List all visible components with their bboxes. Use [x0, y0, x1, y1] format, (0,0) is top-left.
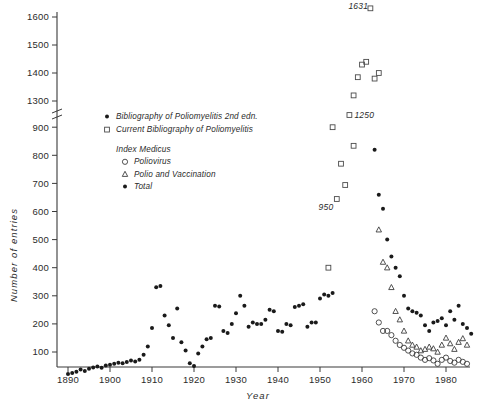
data-series	[373, 148, 474, 336]
x-axis-tick-labels: 1890190019101920193019401950196019701980	[57, 374, 457, 385]
x-tick-label: 1920	[183, 374, 205, 385]
axis-ticks	[52, 17, 446, 372]
data-point	[439, 342, 444, 347]
x-tick-label: 1940	[267, 374, 289, 385]
data-point	[251, 320, 255, 324]
data-point	[238, 294, 242, 298]
data-point	[259, 322, 263, 326]
data-point	[435, 361, 440, 366]
y-tick-label: 1400	[27, 67, 49, 78]
data-point	[389, 254, 393, 258]
data-point	[380, 259, 385, 264]
data-point	[448, 341, 453, 346]
data-point	[397, 317, 402, 322]
data-point	[137, 358, 141, 362]
data-point	[163, 313, 167, 317]
data-point	[200, 344, 204, 348]
data-point	[385, 238, 389, 242]
y-tick-label: 500	[33, 234, 49, 245]
y-axis-title: Number of entries	[8, 208, 19, 302]
y-tick-label: 1300	[27, 95, 49, 106]
data-point	[297, 304, 301, 308]
data-point	[464, 342, 469, 347]
legend-marker	[105, 114, 109, 118]
x-tick-label: 1930	[225, 374, 247, 385]
data-point	[318, 297, 322, 301]
data-point	[339, 161, 344, 166]
y-tick-label: 400	[33, 262, 49, 273]
chart-canvas: 1002003004005006007008009001300140015001…	[0, 0, 482, 407]
data-point	[171, 336, 175, 340]
data-point	[381, 207, 385, 211]
poliomyelitis-literature-chart: 1002003004005006007008009001300140015001…	[0, 0, 482, 407]
data-point	[255, 322, 259, 326]
data-point	[87, 367, 91, 371]
data-point	[343, 183, 348, 188]
data-point	[150, 326, 154, 330]
data-point	[125, 360, 129, 364]
data-point	[70, 371, 74, 375]
data-point	[234, 311, 238, 315]
y-tick-label: 1600	[27, 11, 49, 22]
data-point	[74, 370, 78, 374]
data-point	[175, 306, 179, 310]
x-tick-label: 1910	[141, 374, 163, 385]
data-point	[376, 227, 381, 232]
data-point	[188, 361, 192, 365]
data-point	[226, 331, 230, 335]
data-point	[209, 336, 213, 340]
data-point	[393, 338, 398, 343]
data-point-annotation: 1250	[354, 110, 374, 120]
data-point	[376, 320, 381, 325]
legend-label: Polio and Vaccination	[134, 170, 216, 179]
y-tick-label: 800	[33, 150, 49, 161]
y-tick-label: 700	[33, 178, 49, 189]
y-tick-label: 300	[33, 290, 49, 301]
x-axis-title: Year	[246, 390, 270, 401]
data-point	[146, 344, 150, 348]
data-point	[184, 349, 188, 353]
x-tick-label: 1900	[99, 374, 121, 385]
data-point	[351, 143, 356, 148]
x-tick-label: 1980	[435, 374, 457, 385]
data-point	[330, 125, 335, 130]
data-point	[276, 329, 280, 333]
data-annotations: 16311250950	[319, 1, 375, 212]
data-point	[448, 309, 452, 313]
chart-legend: Bibliography of Poliomyelitis 2nd edn.Cu…	[105, 112, 258, 191]
data-point	[377, 193, 381, 197]
data-point	[272, 309, 276, 313]
data-point	[196, 351, 200, 355]
data-point	[305, 325, 309, 329]
data-point	[436, 319, 440, 323]
data-point	[91, 365, 95, 369]
data-series	[326, 6, 381, 270]
data-point	[452, 346, 457, 351]
data-point	[167, 323, 171, 327]
data-point	[372, 76, 377, 81]
data-point	[398, 274, 402, 278]
y-tick-label: 1500	[27, 39, 49, 50]
data-point	[469, 332, 473, 336]
y-axis-tick-labels: 1002003004005006007008009001300140015001…	[27, 11, 49, 357]
data-point	[465, 326, 469, 330]
data-point	[280, 330, 284, 334]
data-point	[372, 309, 377, 314]
data-point	[326, 265, 331, 270]
x-tick-label: 1970	[393, 374, 415, 385]
data-point	[368, 6, 373, 11]
data-point	[457, 304, 461, 308]
data-point	[284, 322, 288, 326]
legend-label: Bibliography of Poliomyelitis 2nd edn.	[116, 112, 258, 121]
data-point	[247, 325, 251, 329]
data-point	[376, 71, 381, 76]
data-point	[401, 328, 406, 333]
x-tick-label: 1960	[351, 374, 373, 385]
data-point	[393, 308, 398, 313]
data-point	[112, 362, 116, 366]
data-point	[389, 284, 394, 289]
y-tick-label: 600	[33, 206, 49, 217]
data-point	[406, 306, 410, 310]
data-point	[373, 148, 377, 152]
data-point	[464, 361, 469, 366]
